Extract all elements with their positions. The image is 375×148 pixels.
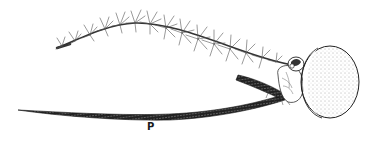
proboscis: [18, 94, 288, 120]
pedicel: [288, 57, 304, 71]
antenna: [56, 10, 292, 68]
proboscis-label: P: [147, 121, 154, 132]
illustration: P: [0, 0, 375, 148]
mosquito-head-drawing: [0, 0, 375, 148]
compound-eye: [301, 46, 359, 118]
